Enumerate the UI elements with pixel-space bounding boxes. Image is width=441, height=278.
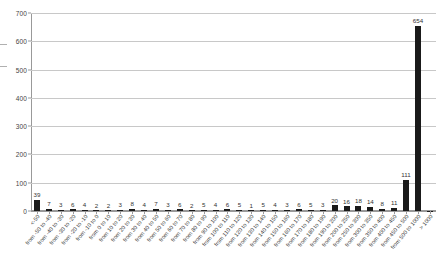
bar <box>415 26 421 211</box>
bar-value-label: 2 <box>95 203 98 211</box>
bar-slot: 3 <box>281 13 293 211</box>
bar-slot: 5 <box>198 13 210 211</box>
bar-slot: 3 <box>114 13 126 211</box>
bar-slot: 4 <box>138 13 150 211</box>
bar-slot: 3 <box>55 13 67 211</box>
bar-value-label: 3 <box>321 202 324 210</box>
bar-value-label: 2 <box>190 203 193 211</box>
bar-value-label: 5 <box>261 202 264 210</box>
bar-value-label: 4 <box>83 202 86 210</box>
bar-slot: 5 <box>305 13 317 211</box>
plot-area: 0100200300400500600700 39736422384736254… <box>31 13 436 211</box>
bar-slot: 2 <box>91 13 103 211</box>
bar-slot: 4 <box>269 13 281 211</box>
edge-mark <box>0 66 7 67</box>
bar-slot: 5 <box>233 13 245 211</box>
bar-slot: 5 <box>257 13 269 211</box>
bar-value-label: 5 <box>202 202 205 210</box>
bar-slot: 6 <box>174 13 186 211</box>
bar-value-label: 4 <box>214 202 217 210</box>
bar-value-label: 654 <box>413 18 423 26</box>
y-tick-label: 300 <box>16 123 27 130</box>
bar-value-label: 3 <box>119 202 122 210</box>
bar-value-label: 1 <box>250 203 253 211</box>
bar-value-label: 2 <box>107 203 110 211</box>
bar-slot: 8 <box>126 13 138 211</box>
bar-value-label: 16 <box>343 199 350 207</box>
bar-slot: 3 <box>162 13 174 211</box>
bar-value-label: 6 <box>226 202 229 210</box>
bar-slot: 18 <box>352 13 364 211</box>
histogram-chart: 0100200300400500600700 39736422384736254… <box>0 0 441 278</box>
bar <box>403 180 409 211</box>
bar-slot: 8 <box>376 13 388 211</box>
bar-value-label: 14 <box>367 199 374 207</box>
bar-slot: 7 <box>150 13 162 211</box>
bar-slot: 7 <box>43 13 55 211</box>
bar-value-label: 6 <box>71 202 74 210</box>
bar-series: 3973642238473625465154365320161814811111… <box>31 13 436 211</box>
bar-slot: 11 <box>388 13 400 211</box>
bar-slot: 111 <box>400 13 412 211</box>
edge-mark <box>0 44 7 45</box>
bar-slot: 2 <box>186 13 198 211</box>
bar-value-label: 6 <box>178 202 181 210</box>
y-tick-label: 0 <box>23 208 27 215</box>
bar-value-label: 4 <box>142 202 145 210</box>
bar-value-label: 3 <box>166 202 169 210</box>
y-tick-label: 500 <box>16 66 27 73</box>
bar-value-label: 8 <box>130 201 133 209</box>
bar-value-label: 8 <box>381 201 384 209</box>
bar-value-label: 5 <box>309 202 312 210</box>
bar-slot: 4 <box>79 13 91 211</box>
bar-value-label: 3 <box>285 202 288 210</box>
bar <box>34 200 40 211</box>
bar-slot: 654 <box>412 13 424 211</box>
bar-slot: 1 <box>245 13 257 211</box>
bar-slot: 6 <box>67 13 79 211</box>
bar-value-label: 3 <box>59 202 62 210</box>
bar-slot <box>424 13 436 211</box>
y-tick-label: 200 <box>16 151 27 158</box>
y-tick-label: 100 <box>16 179 27 186</box>
bar-value-label: 7 <box>47 201 50 209</box>
bar-value-label: 11 <box>391 200 397 208</box>
y-tick-label: 600 <box>16 38 27 45</box>
bar-slot: 3 <box>317 13 329 211</box>
bar-slot: 16 <box>341 13 353 211</box>
bar-value-label: 5 <box>238 202 241 210</box>
bar-value-label: 39 <box>34 192 41 200</box>
x-axis-labels: <-50from -50 to -40from -40 to -30from -… <box>31 214 436 278</box>
y-tick-label: 700 <box>16 10 27 17</box>
bar-value-label: 6 <box>297 202 300 210</box>
bar-slot: 4 <box>210 13 222 211</box>
bar-slot: 14 <box>364 13 376 211</box>
bar-slot: 6 <box>222 13 234 211</box>
y-tick-label: 400 <box>16 94 27 101</box>
bar-value-label: 18 <box>355 198 362 206</box>
bar-slot: 39 <box>31 13 43 211</box>
bar-value-label: 20 <box>331 198 338 206</box>
bar-value-label: 7 <box>154 201 157 209</box>
x-label-slot: > 1000 <box>424 214 436 278</box>
bar-slot: 20 <box>329 13 341 211</box>
bar-slot: 6 <box>293 13 305 211</box>
bar-slot: 2 <box>102 13 114 211</box>
bar-value-label: 4 <box>273 202 276 210</box>
bar-value-label: 111 <box>401 172 410 180</box>
